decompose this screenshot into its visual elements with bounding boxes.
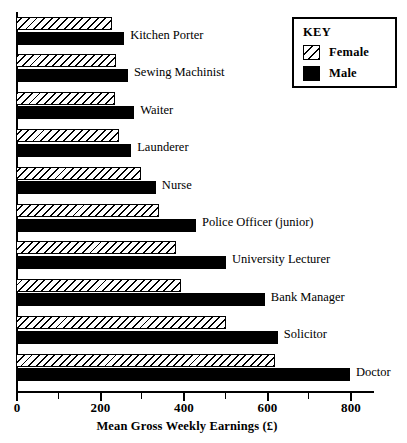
bar-female-police-officer-junior bbox=[16, 204, 159, 217]
bar-female-waiter bbox=[16, 92, 115, 105]
legend-entry-male: Male bbox=[303, 66, 357, 81]
category-label-solicitor: Solicitor bbox=[284, 327, 327, 342]
category-label-police-officer-junior: Police Officer (junior) bbox=[202, 215, 314, 230]
bar-female-university-lecturer bbox=[16, 241, 176, 254]
x-tick-label-200: 200 bbox=[90, 400, 110, 416]
bar-male-solicitor bbox=[16, 331, 278, 344]
x-tick-label-600: 600 bbox=[257, 400, 277, 416]
category-label-nurse: Nurse bbox=[162, 178, 192, 193]
bar-male-sewing-machinist bbox=[16, 69, 128, 82]
x-tick-label-800: 800 bbox=[341, 400, 361, 416]
category-label-university-lecturer: University Lecturer bbox=[232, 252, 330, 267]
category-label-waiter: Waiter bbox=[140, 103, 173, 118]
bar-male-university-lecturer bbox=[16, 256, 226, 269]
bar-female-kitchen-porter bbox=[16, 17, 112, 30]
bar-male-kitchen-porter bbox=[16, 32, 124, 45]
bar-female-launderer bbox=[16, 129, 119, 142]
category-label-bank-manager: Bank Manager bbox=[271, 290, 345, 305]
bar-female-bank-manager bbox=[16, 279, 181, 292]
category-label-launderer: Launderer bbox=[137, 140, 188, 155]
legend-title: KEY bbox=[303, 25, 331, 40]
diagonal-hatch-swatch bbox=[303, 45, 320, 60]
x-axis-title: Mean Gross Weekly Earnings (£) bbox=[0, 419, 374, 434]
bar-chart: 0200400600800 Kitchen PorterSewing Machi… bbox=[0, 0, 407, 443]
x-tick-minor-500 bbox=[225, 393, 226, 399]
x-tick-minor-100 bbox=[58, 393, 59, 399]
legend-label-male: Male bbox=[329, 66, 357, 81]
category-label-kitchen-porter: Kitchen Porter bbox=[130, 28, 203, 43]
bar-female-doctor bbox=[16, 354, 275, 367]
x-tick-label-400: 400 bbox=[174, 400, 194, 416]
bar-male-doctor bbox=[16, 368, 350, 381]
bar-female-solicitor bbox=[16, 316, 226, 329]
category-label-doctor: Doctor bbox=[356, 365, 391, 380]
bar-male-nurse bbox=[16, 181, 156, 194]
bar-male-police-officer-junior bbox=[16, 219, 196, 232]
legend-box: KEY Female Male bbox=[292, 17, 397, 88]
x-tick-minor-300 bbox=[141, 393, 142, 399]
legend-label-female: Female bbox=[329, 45, 369, 60]
x-axis-line bbox=[16, 391, 374, 393]
bar-male-bank-manager bbox=[16, 293, 265, 306]
legend-entry-female: Female bbox=[303, 45, 369, 60]
bar-male-waiter bbox=[16, 106, 134, 119]
solid-black-swatch bbox=[303, 66, 320, 81]
x-tick-label-0: 0 bbox=[14, 400, 21, 416]
bar-male-launderer bbox=[16, 144, 131, 157]
bar-female-nurse bbox=[16, 167, 141, 180]
x-tick-minor-700 bbox=[308, 393, 309, 399]
category-label-sewing-machinist: Sewing Machinist bbox=[134, 65, 225, 80]
bar-female-sewing-machinist bbox=[16, 54, 116, 67]
